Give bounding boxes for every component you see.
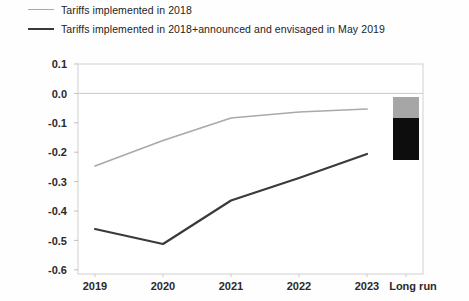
x-tick-label-5: Long run [389, 280, 437, 292]
chart-figure: Tariffs implemented in 2018 Tariffs impl… [0, 0, 469, 301]
x-tick-label-1: 2020 [151, 280, 175, 292]
y-tick-label-6: -0.5 [48, 235, 67, 247]
y-tick-label-2: -0.1 [48, 117, 67, 129]
y-axis-ticks [74, 64, 78, 270]
x-tick-label-3: 2022 [287, 280, 311, 292]
y-axis-labels: 0.1 0.0 -0.1 -0.2 -0.3 -0.4 -0.5 -0.6 [48, 58, 68, 276]
y-tick-label-5: -0.4 [48, 205, 68, 217]
long-run-bar-segment-dark [393, 118, 419, 160]
x-tick-label-4: 2023 [355, 280, 379, 292]
x-tick-label-0: 2019 [83, 280, 107, 292]
y-tick-label-3: -0.2 [48, 146, 67, 158]
x-tick-label-2: 2021 [219, 280, 243, 292]
y-tick-label-4: -0.3 [48, 176, 67, 188]
plot-frame [78, 64, 423, 274]
plot-area: 0.1 0.0 -0.1 -0.2 -0.3 -0.4 -0.5 -0.6 [0, 0, 469, 301]
y-tick-label-0: 0.1 [52, 58, 67, 70]
x-axis-labels: 2019 2020 2021 2022 2023 Long run [83, 280, 437, 292]
long-run-bar-segment-light [393, 97, 419, 118]
chart-svg: 0.1 0.0 -0.1 -0.2 -0.3 -0.4 -0.5 -0.6 [0, 0, 469, 301]
y-tick-label-1: 0.0 [52, 88, 67, 100]
y-tick-label-7: -0.6 [48, 264, 67, 276]
long-run-bar [393, 97, 419, 160]
